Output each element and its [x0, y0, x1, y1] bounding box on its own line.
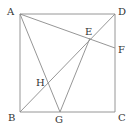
segment-ag: [20, 14, 60, 112]
label-g: G: [55, 115, 63, 125]
label-a: A: [7, 7, 14, 17]
label-b: B: [8, 113, 15, 123]
figure-canvas: [0, 0, 131, 129]
diagonal-bd: [20, 14, 115, 112]
segment-eg: [60, 38, 90, 112]
label-c: C: [118, 113, 126, 123]
label-f: F: [118, 45, 125, 55]
label-h: H: [36, 78, 45, 88]
geometry-figure: A D E F H B G C: [0, 0, 131, 129]
label-e: E: [85, 27, 92, 37]
segment-af: [20, 14, 115, 48]
label-d: D: [118, 7, 126, 17]
